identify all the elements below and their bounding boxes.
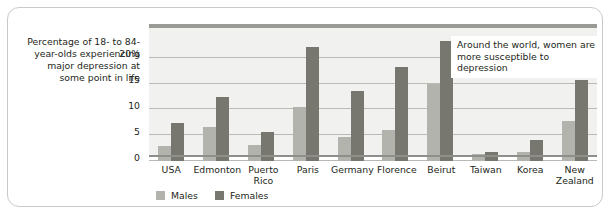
legend-label: Females (230, 191, 268, 200)
y-tick-label: 5 (134, 127, 140, 136)
x-tick-label: Puerto Rico (241, 162, 285, 192)
bar-females (216, 97, 229, 161)
bar-females (530, 140, 543, 161)
bar-females (306, 47, 319, 161)
x-tick-label: Edmonton (193, 162, 241, 192)
legend-label: Males (171, 191, 198, 200)
legend-swatch-icon (156, 191, 165, 200)
x-axis-category-labels: USAEdmontonPuerto RicoParisGermanyFloren… (149, 162, 597, 192)
y-tick-label: 10 (128, 101, 140, 110)
bar-males (427, 84, 440, 161)
x-axis-line (149, 155, 597, 157)
bar-males (248, 145, 261, 162)
y-tick-label: 0 (134, 153, 140, 162)
bar-group (239, 32, 284, 161)
y-tick-label: 15 (128, 75, 140, 84)
bar-females (395, 67, 408, 161)
bar-group (194, 32, 239, 161)
chart-legend: MalesFemales (156, 191, 268, 200)
bar-females (575, 80, 588, 161)
x-tick-label: Florence (375, 162, 419, 192)
bar-females (351, 91, 364, 161)
x-tick-label: Paris (286, 162, 330, 192)
chart-figure: Percentage of 18- to 84-year-olds experi… (7, 7, 603, 207)
x-tick-label: Taiwan (464, 162, 508, 192)
x-tick-label: Germany (330, 162, 374, 192)
y-tick-label: 20% (119, 49, 140, 58)
legend-item-males: Males (156, 191, 198, 200)
y-axis-tick-labels: 05101520% (112, 24, 144, 161)
bar-group (373, 32, 418, 161)
x-tick-label: USA (149, 162, 193, 192)
bar-males (158, 146, 171, 161)
x-tick-label: Korea (508, 162, 552, 192)
bar-males (293, 107, 306, 161)
bar-males (338, 137, 351, 161)
legend-swatch-icon (215, 191, 224, 200)
bar-group (283, 32, 328, 161)
bar-group (328, 32, 373, 161)
x-tick-label: New Zealand (553, 162, 597, 192)
bar-group (149, 32, 194, 161)
legend-item-females: Females (215, 191, 268, 200)
x-tick-label: Beirut (419, 162, 463, 192)
annotation-callout: Around the world, women are more suscept… (451, 36, 599, 78)
